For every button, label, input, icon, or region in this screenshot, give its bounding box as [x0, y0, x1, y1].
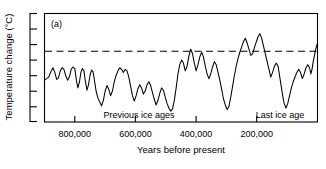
y-axis-title: Temperature change (°C): [3, 14, 14, 121]
chart-svg: Temperature change (°C) (a) 800,000 600,…: [0, 0, 326, 169]
x-tick-label: 600,000: [119, 129, 152, 139]
panel-label: (a): [51, 19, 62, 29]
x-axis-tick-labels: 800,000 600,000 400,000 200,000: [59, 129, 273, 139]
y-axis-spine-group: [30, 13, 37, 122]
figure-panel-a: Temperature change (°C) (a) 800,000 600,…: [0, 0, 326, 169]
annotation-previous-ice-ages: Previous ice ages: [103, 110, 175, 120]
x-tick-label: 400,000: [180, 129, 213, 139]
plot-frame: [45, 14, 318, 123]
temperature-curve: [45, 34, 318, 112]
x-axis-title: Years before present: [137, 144, 225, 155]
x-tick-label: 200,000: [240, 129, 273, 139]
x-tick-label: 800,000: [59, 129, 92, 139]
annotation-last-ice-age: Last ice age: [256, 110, 305, 120]
